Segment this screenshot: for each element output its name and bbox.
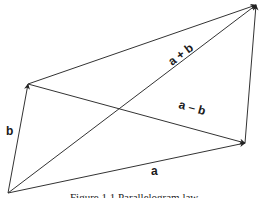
parallelogram-diagram: a b a + b a – b Figure 1.1 Parallelogram… xyxy=(0,0,261,198)
vector-sum-arrow xyxy=(8,5,256,193)
vector-b-arrow xyxy=(8,84,28,193)
label-diff: a – b xyxy=(177,97,207,118)
label-sum: a + b xyxy=(165,41,196,69)
vector-diff-arrow xyxy=(28,84,245,143)
label-b: b xyxy=(6,124,13,138)
vector-a-arrow xyxy=(8,143,245,193)
figure-caption: Figure 1.1 Parallelogram law xyxy=(70,191,198,198)
label-a: a xyxy=(151,164,158,178)
side-a-to-sum-arrow xyxy=(245,5,256,143)
side-b-to-sum-arrow xyxy=(28,5,256,84)
